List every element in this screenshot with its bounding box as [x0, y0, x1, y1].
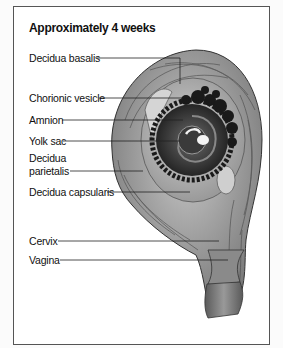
- label-amnion: Amnion: [29, 114, 63, 126]
- label-decidua-basalis: Decidua basalis: [29, 52, 100, 64]
- label-decidua-capsularis: Decidua capsularis: [29, 186, 114, 198]
- label-decidua-parietalis-line2: parietalis: [29, 165, 69, 177]
- label-vagina: Vagina: [29, 254, 60, 266]
- label-chorionic-vesicle: Chorionic vesicle: [29, 92, 105, 104]
- label-yolk-sac: Yolk sac: [29, 135, 66, 147]
- figure-title: Approximately 4 weeks: [29, 21, 155, 35]
- label-cervix: Cervix: [29, 235, 58, 247]
- label-decidua-parietalis-line1: Decidua: [29, 152, 66, 164]
